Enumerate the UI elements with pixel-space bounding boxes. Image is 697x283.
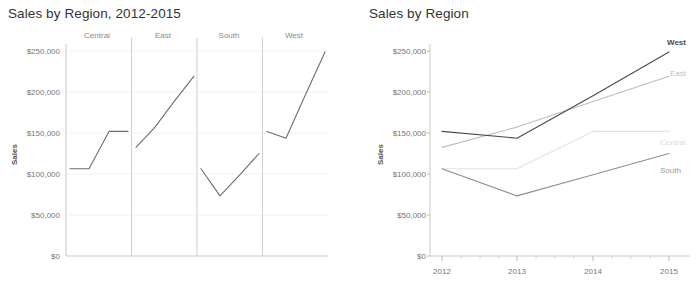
line-west bbox=[442, 52, 669, 138]
dashboard-canvas: Sales by Region, 2012-2015 Sales Central… bbox=[0, 0, 697, 283]
right-chart-plot bbox=[0, 0, 697, 283]
line-east bbox=[442, 76, 669, 147]
line-south bbox=[442, 154, 669, 196]
